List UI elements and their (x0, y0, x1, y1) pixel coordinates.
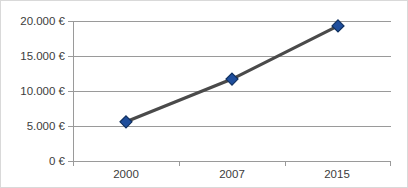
chart-container: 20.000 € 15.000 € 10.000 € 5.000 € 0 € 2… (0, 0, 408, 188)
data-point-marker (226, 73, 238, 85)
data-point-marker (332, 20, 344, 32)
data-series (1, 1, 408, 188)
data-point-marker (120, 116, 132, 128)
